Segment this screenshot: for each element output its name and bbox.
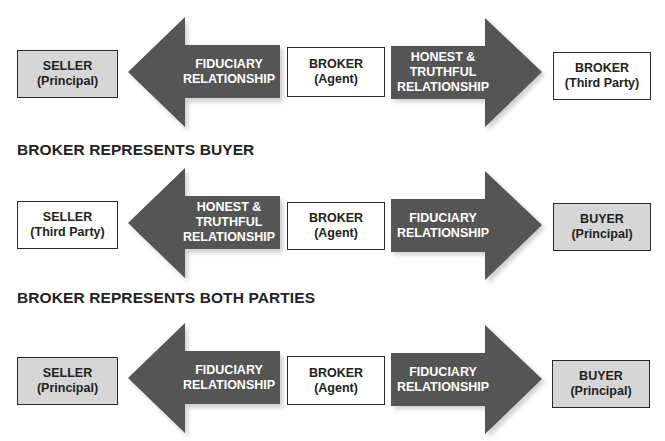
box-title: SELLER bbox=[43, 366, 92, 381]
arrow-label-line: HONEST & bbox=[411, 50, 476, 65]
box-subtitle: (Third Party) bbox=[565, 76, 639, 91]
broker-agent-box: BROKER (Agent) bbox=[287, 202, 385, 250]
right-arrow-honest-truthful: HONEST & TRUTHFUL RELATIONSHIP bbox=[391, 18, 543, 128]
seller-third-party-box: SELLER (Third Party) bbox=[17, 201, 118, 249]
left-arrow-honest-truthful: HONEST & TRUTHFUL RELATIONSHIP bbox=[128, 168, 281, 279]
arrow-label-line: RELATIONSHIP bbox=[183, 378, 275, 393]
box-subtitle: (Principal) bbox=[37, 74, 98, 89]
box-subtitle: (Agent) bbox=[314, 226, 358, 241]
arrow-label-line: HONEST & bbox=[197, 200, 262, 215]
box-subtitle: (Principal) bbox=[571, 227, 632, 242]
buyer-principal-box: BUYER (Principal) bbox=[552, 360, 650, 408]
arrow-label-line: RELATIONSHIP bbox=[183, 230, 275, 245]
arrow-label-line: TRUTHFUL bbox=[410, 65, 477, 80]
arrow-label-line: RELATIONSHIP bbox=[397, 380, 489, 395]
box-subtitle: (Agent) bbox=[314, 381, 358, 396]
arrow-label-line: TRUTHFUL bbox=[196, 215, 263, 230]
arrow-label-line: FIDUCIARY bbox=[409, 211, 477, 226]
box-title: BROKER bbox=[309, 57, 363, 72]
arrow-label-line: FIDUCIARY bbox=[195, 363, 263, 378]
left-arrow-fiduciary: FIDUCIARY RELATIONSHIP bbox=[128, 17, 281, 128]
broker-agent-box: BROKER (Agent) bbox=[287, 47, 385, 97]
arrow-label-line: RELATIONSHIP bbox=[183, 72, 275, 87]
broker-third-party-box: BROKER (Third Party) bbox=[553, 52, 651, 100]
arrow-label-line: FIDUCIARY bbox=[409, 365, 477, 380]
right-arrow-fiduciary: FIDUCIARY RELATIONSHIP bbox=[391, 171, 543, 281]
seller-principal-box: SELLER (Principal) bbox=[17, 357, 118, 405]
arrow-label-line: FIDUCIARY bbox=[195, 57, 263, 72]
box-title: BROKER bbox=[575, 61, 629, 76]
buyer-principal-box: BUYER (Principal) bbox=[553, 203, 651, 251]
box-title: BUYER bbox=[580, 212, 624, 227]
box-subtitle: (Principal) bbox=[570, 384, 631, 399]
box-title: BUYER bbox=[579, 369, 623, 384]
arrow-label-line: RELATIONSHIP bbox=[397, 80, 489, 95]
broker-agent-box: BROKER (Agent) bbox=[287, 356, 385, 405]
right-arrow-fiduciary: FIDUCIARY RELATIONSHIP bbox=[391, 325, 543, 435]
section-title-broker-represents-buyer: BROKER REPRESENTS BUYER bbox=[17, 141, 254, 159]
box-title: SELLER bbox=[43, 210, 92, 225]
box-subtitle: (Agent) bbox=[314, 72, 358, 87]
seller-principal-box: SELLER (Principal) bbox=[17, 50, 118, 98]
box-title: SELLER bbox=[43, 59, 92, 74]
arrow-label-line: RELATIONSHIP bbox=[397, 226, 489, 241]
left-arrow-fiduciary: FIDUCIARY RELATIONSHIP bbox=[128, 323, 281, 434]
box-title: BROKER bbox=[309, 211, 363, 226]
box-subtitle: (Principal) bbox=[37, 381, 98, 396]
box-title: BROKER bbox=[309, 366, 363, 381]
section-title-broker-represents-both: BROKER REPRESENTS BOTH PARTIES bbox=[17, 289, 315, 307]
box-subtitle: (Third Party) bbox=[30, 225, 104, 240]
